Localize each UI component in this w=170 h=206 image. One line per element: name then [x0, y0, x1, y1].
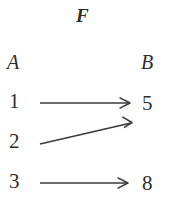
function-mapping-diagram: F A B 1 2 3 5 8	[0, 0, 170, 206]
mapping-arrows-layer	[0, 0, 170, 206]
mapping-arrow-1-to-5	[40, 98, 130, 109]
mapping-arrow-2-to-5	[40, 117, 132, 144]
mapping-arrow-3-to-8	[40, 178, 128, 189]
